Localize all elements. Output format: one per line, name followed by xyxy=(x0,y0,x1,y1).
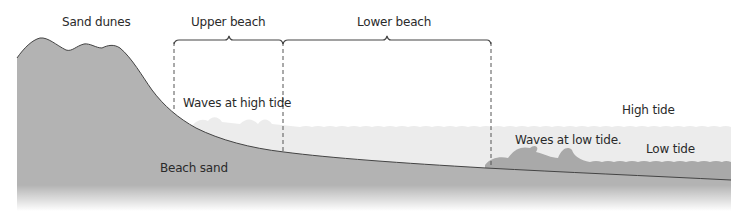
label-sand-dunes: Sand dunes xyxy=(62,15,130,29)
beach-profile-diagram: Sand dunes Upper beach Lower beach Waves… xyxy=(0,0,731,211)
label-waves-high-tide: Waves at high tide xyxy=(183,96,291,110)
label-waves-low-tide: Waves at low tide. xyxy=(515,133,621,147)
label-high-tide: High tide xyxy=(622,103,675,117)
label-beach-sand: Beach sand xyxy=(160,161,228,175)
label-low-tide: Low tide xyxy=(646,142,695,156)
label-lower-beach: Lower beach xyxy=(357,15,431,29)
label-upper-beach: Upper beach xyxy=(191,15,266,29)
upper-beach-bracket xyxy=(174,36,283,44)
lower-beach-bracket xyxy=(283,36,491,44)
bottom-fade xyxy=(0,185,731,211)
